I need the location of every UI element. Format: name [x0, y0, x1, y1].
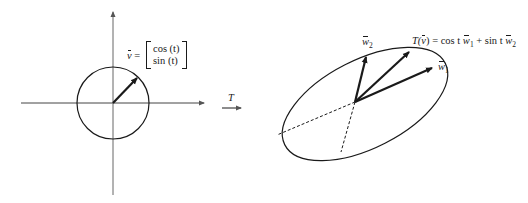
matrix-row-sin: sin (t) — [153, 55, 178, 67]
matrix-row-cos: cos (t) — [153, 43, 180, 55]
formula-v: v — [421, 36, 426, 47]
w2-symbol: w — [362, 37, 369, 48]
vector-w2-arrow — [355, 57, 366, 102]
right-bracket — [182, 41, 187, 69]
vector-v-arrow — [113, 78, 137, 103]
vector-v-label: v = — [127, 51, 140, 62]
column-matrix: cos (t) sin (t) — [146, 41, 187, 69]
w1-subscript: 1 — [445, 66, 449, 75]
w1-symbol: w — [438, 62, 445, 73]
left-axes — [21, 12, 204, 195]
diagram-canvas — [0, 0, 528, 203]
formula-w2-sub: 2 — [512, 40, 516, 49]
matrix-entries: cos (t) sin (t) — [151, 43, 182, 67]
formula-w2: w — [505, 36, 512, 47]
vector-Tv-arrow — [355, 52, 409, 102]
vector-w1-arrow — [355, 68, 432, 102]
formula-T: T( — [412, 35, 421, 46]
dashed-minus-w1 — [277, 102, 355, 135]
w2-subscript: 2 — [369, 41, 373, 50]
w2-label: w2 — [362, 37, 373, 50]
equals-sign: = — [134, 50, 140, 61]
transform-formula: T(v) = cos t w1 + sin t w2 — [412, 36, 516, 49]
formula-w1: w — [463, 36, 470, 47]
formula-plus-sin: + sin t — [474, 35, 506, 46]
w1-label: w1 — [438, 62, 449, 75]
formula-equals-cos: = cos t — [430, 35, 463, 46]
dashed-minus-w2 — [341, 102, 355, 152]
v-symbol: v — [127, 51, 132, 62]
transform-label: T — [228, 93, 234, 104]
